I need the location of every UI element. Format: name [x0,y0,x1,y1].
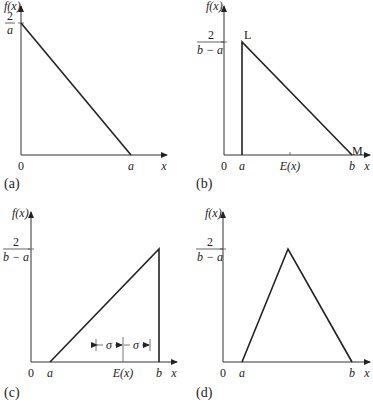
panel-a: f(x) 2 a 0 a x (a) [4,0,167,192]
pdf-curve [21,23,131,155]
x-tick-0: 0 [221,159,227,173]
panel-label: (c) [4,385,20,401]
y-tick-numerator: 2 [13,235,19,249]
sigma-left: σ [106,338,113,352]
pdf-curve [242,42,352,155]
pdf-curve [242,249,352,362]
panel-b: f(x) 2 b − a L M 0 a E(x) b x (b) [196,0,370,192]
sigma-right: σ [133,338,140,352]
x-tick-0: 0 [220,366,226,380]
triangular-distributions-figure: f(x) 2 a 0 a x (a) f(x) 2 b − a L M 0 a … [0,0,373,410]
y-tick-denominator: a [7,23,13,37]
x-tick-a: a [128,159,134,173]
x-tick-a: a [47,366,53,380]
y-tick-numerator: 2 [207,235,213,249]
x-tick-expected: E(x) [279,159,301,173]
x-tick-b: b [349,366,355,380]
point-label-L: L [244,28,251,42]
y-tick-numerator: 2 [208,28,214,42]
panel-label: (d) [196,385,213,401]
y-tick-denominator: b − a [197,250,223,264]
panel-c: σ σ f(x) 2 b − a 0 a E(x) b x (c) [3,206,177,401]
panel-label: (a) [4,176,20,192]
y-tick-denominator: b − a [197,43,223,57]
x-axis-label: x [170,366,177,380]
x-axis-label: x [160,159,167,173]
x-tick-a: a [239,366,245,380]
x-tick-b: b [349,159,355,173]
panel-label: (b) [196,176,213,192]
x-tick-0: 0 [28,366,34,380]
y-axis-label: f(x) [205,206,222,220]
x-tick-a: a [239,159,245,173]
y-tick-denominator: b − a [3,250,29,264]
x-tick-0: 0 [18,159,24,173]
point-label-M: M [352,144,363,158]
y-axis-label: f(x) [12,206,29,220]
y-axis-label: f(x) [206,0,223,13]
x-axis-label: x [363,159,370,173]
x-tick-b: b [156,366,162,380]
panel-d: f(x) 2 b − a 0 a b x (d) [196,206,370,401]
x-axis-label: x [363,366,370,380]
x-tick-expected: E(x) [112,366,134,380]
y-tick-numerator: 2 [7,9,13,23]
